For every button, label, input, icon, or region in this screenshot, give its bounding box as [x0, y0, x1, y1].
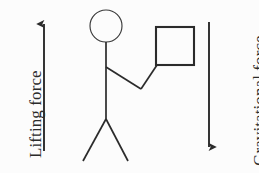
- stick-figure-upper-arm: [106, 67, 141, 89]
- stick-figure-left-leg: [83, 119, 106, 161]
- stick-figure-right-leg: [106, 119, 128, 161]
- diagram-canvas: [0, 0, 259, 173]
- stick-figure-forearm: [141, 65, 157, 89]
- stick-figure-head: [90, 10, 122, 42]
- held-box: [156, 27, 194, 65]
- force-diagram: Lifting force Gravitational force: [0, 0, 259, 173]
